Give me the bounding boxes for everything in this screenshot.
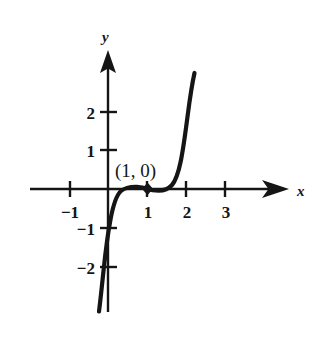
x-axis-label: x	[296, 183, 305, 199]
point-marker-1-0	[142, 183, 153, 196]
y-tick-label-neg2: −2	[77, 259, 95, 278]
y-tick-label-1: 1	[87, 142, 96, 161]
cubic-function-graph-figure: −1 1 2 3 2 1 −1 −2 x y (1, 0)	[0, 0, 322, 346]
x-tick-label-3: 3	[222, 203, 231, 222]
point-annotation-label: (1, 0)	[115, 160, 156, 182]
y-tick-label-2: 2	[87, 104, 96, 123]
plot-canvas: −1 1 2 3 2 1 −1 −2 x y (1, 0)	[0, 0, 322, 346]
y-axis-label: y	[100, 29, 109, 45]
x-tick-label-2: 2	[183, 203, 192, 222]
x-tick-label-1: 1	[144, 203, 153, 222]
y-tick-label-neg1: −1	[77, 220, 95, 239]
